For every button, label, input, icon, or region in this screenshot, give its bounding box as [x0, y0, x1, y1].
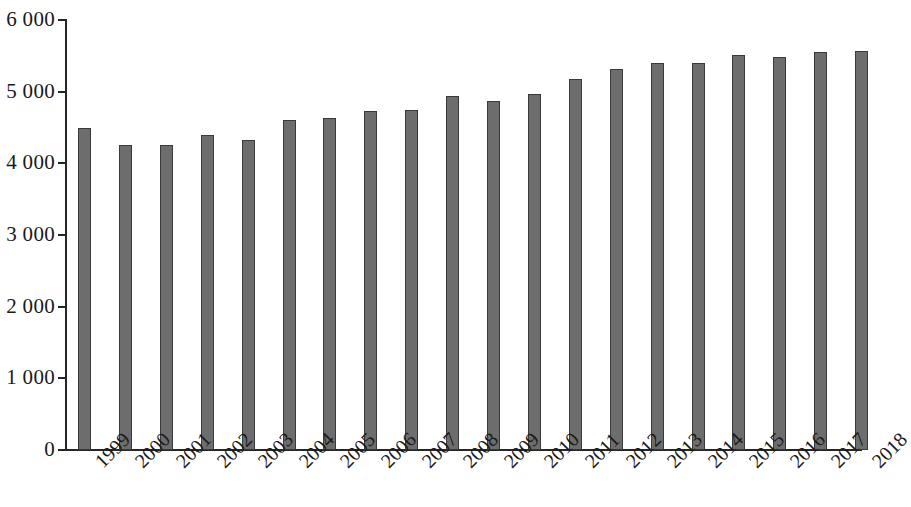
y-axis-tick-group: 0 [66, 449, 67, 450]
bar [283, 120, 296, 450]
bar [242, 140, 255, 450]
bar [405, 110, 418, 450]
y-axis-tick-label: 6 000 [6, 9, 55, 30]
bar [364, 111, 377, 450]
y-axis-tick-label: 1 000 [6, 367, 55, 388]
y-axis-tick-mark [58, 449, 66, 451]
y-axis-tick-group: 3 000 [66, 234, 67, 235]
y-axis-tick-label: 5 000 [6, 80, 55, 101]
bar [732, 55, 745, 450]
bar [651, 63, 664, 450]
bar [323, 118, 336, 450]
y-axis-tick-mark [58, 162, 66, 164]
bar [692, 63, 705, 450]
bar [528, 94, 541, 450]
y-axis-tick-label: 4 000 [6, 152, 55, 173]
y-axis-tick-mark [58, 234, 66, 236]
y-axis-tick-label: 2 000 [6, 295, 55, 316]
bar [855, 51, 868, 450]
y-axis-tick-group: 6 000 [66, 19, 67, 20]
y-axis-tick-mark [58, 377, 66, 379]
bar [78, 128, 91, 451]
y-axis-tick-group: 2 000 [66, 306, 67, 307]
bar [569, 79, 582, 450]
bar [119, 145, 132, 450]
y-axis-tick-mark [58, 91, 66, 93]
bar [446, 96, 459, 450]
bar [160, 145, 173, 450]
plot-area: 01 0002 0003 0004 0005 0006 000 [66, 20, 861, 450]
y-axis-tick-mark [58, 19, 66, 21]
y-axis-tick-label: 3 000 [6, 224, 55, 245]
y-axis-tick-mark [58, 306, 66, 308]
x-axis-tick-label: 2018 [868, 429, 910, 471]
bar [610, 69, 623, 450]
y-axis-tick-label: 0 [44, 439, 55, 460]
bar [487, 101, 500, 450]
y-axis-tick-group: 5 000 [66, 91, 67, 92]
bar [773, 57, 786, 450]
y-axis-tick-group: 4 000 [66, 162, 67, 163]
bar [201, 135, 214, 450]
y-axis-tick-group: 1 000 [66, 377, 67, 378]
bar [814, 52, 827, 450]
